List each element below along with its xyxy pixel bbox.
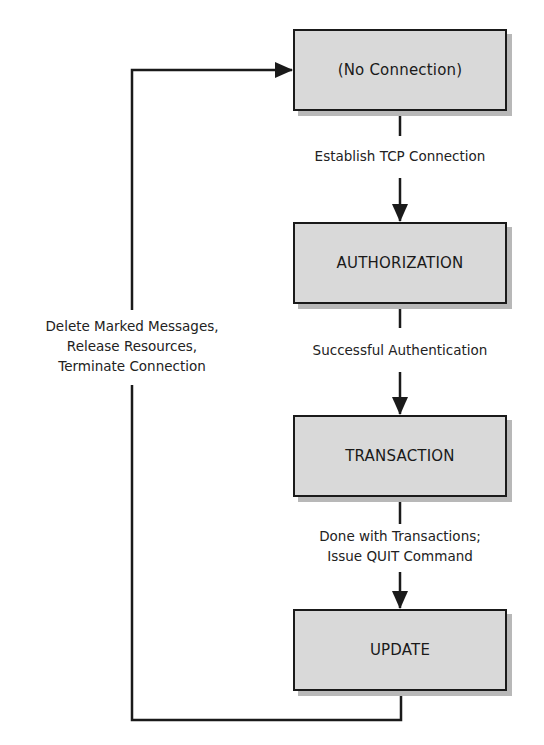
state-label: AUTHORIZATION: [337, 254, 464, 272]
state-transaction: TRANSACTION: [293, 415, 507, 497]
state-label: UPDATE: [370, 641, 430, 659]
transition-label-successful-auth: Successful Authentication: [300, 340, 500, 360]
state-update: UPDATE: [293, 609, 507, 691]
transition-label-quit: Done with Transactions; Issue QUIT Comma…: [300, 526, 500, 566]
state-label: (No Connection): [338, 61, 463, 79]
transition-label-terminate: Delete Marked Messages, Release Resource…: [22, 316, 242, 376]
state-label: TRANSACTION: [345, 447, 455, 465]
state-authorization: AUTHORIZATION: [293, 222, 507, 304]
state-no-connection: (No Connection): [293, 29, 507, 111]
transition-label-establish-tcp: Establish TCP Connection: [300, 146, 500, 166]
